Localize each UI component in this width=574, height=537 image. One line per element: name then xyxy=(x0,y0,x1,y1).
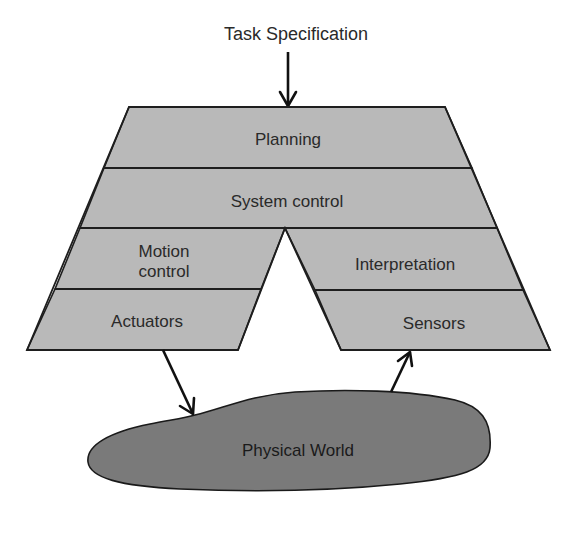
actuators-to-world-arrow-icon xyxy=(163,350,194,414)
task-specification-arrow-icon xyxy=(280,52,296,106)
actuators-label: Actuators xyxy=(111,312,183,331)
planning-label: Planning xyxy=(255,130,321,149)
robot-control-hierarchy-diagram: Task Specification Planning System contr… xyxy=(0,0,574,537)
world-to-sensors-arrow-icon xyxy=(391,352,412,392)
system-control-label: System control xyxy=(231,192,343,211)
interpretation-label: Interpretation xyxy=(355,255,455,274)
sensors-label: Sensors xyxy=(403,314,465,333)
motion-control-label-line2: control xyxy=(138,262,189,281)
motion-control-label-line1: Motion xyxy=(138,242,189,261)
task-specification-label: Task Specification xyxy=(224,24,368,44)
physical-world-label: Physical World xyxy=(242,441,354,460)
